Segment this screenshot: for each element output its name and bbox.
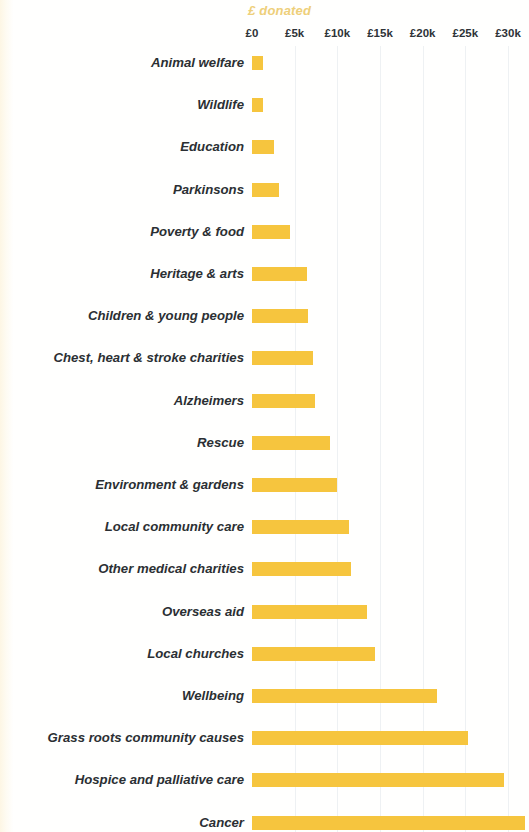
category-label: Local community care	[0, 520, 244, 534]
bar-row: Overseas aid	[0, 605, 529, 647]
bar	[252, 773, 504, 787]
bar	[252, 394, 315, 408]
bar	[252, 267, 307, 281]
category-label: Wellbeing	[0, 689, 244, 703]
category-label: Other medical charities	[0, 562, 244, 576]
category-label: Poverty & food	[0, 225, 244, 239]
bar	[252, 225, 290, 239]
bar	[252, 56, 263, 70]
bar-row: Wildlife	[0, 98, 529, 140]
category-label: Rescue	[0, 436, 244, 450]
category-label: Overseas aid	[0, 605, 244, 619]
category-label: Alzheimers	[0, 394, 244, 408]
category-label: Heritage & arts	[0, 267, 244, 281]
category-label: Wildlife	[0, 98, 244, 112]
bar	[252, 478, 337, 492]
bar-row: Wellbeing	[0, 689, 529, 731]
bar	[252, 605, 367, 619]
bar	[252, 816, 525, 830]
bar	[252, 647, 375, 661]
bar	[252, 731, 468, 745]
x-tick-label: £5k	[285, 27, 304, 39]
bar-row: Cancer	[0, 816, 529, 832]
x-tick-label: £0	[246, 27, 259, 39]
category-label: Cancer	[0, 816, 244, 830]
bar	[252, 562, 351, 576]
category-label: Children & young people	[0, 309, 244, 323]
category-label: Parkinsons	[0, 183, 244, 197]
bar-row: Grass roots community causes	[0, 731, 529, 773]
x-tick-label: £30k	[495, 27, 521, 39]
x-tick-label: £20k	[410, 27, 436, 39]
bar-row: Alzheimers	[0, 394, 529, 436]
category-label: Grass roots community causes	[0, 731, 244, 745]
category-label: Animal welfare	[0, 56, 244, 70]
bar-row: Heritage & arts	[0, 267, 529, 309]
bar	[252, 689, 437, 703]
category-label: Environment & gardens	[0, 478, 244, 492]
bar	[252, 98, 263, 112]
category-label: Chest, heart & stroke charities	[0, 351, 244, 365]
bar	[252, 183, 279, 197]
bar-row: Hospice and palliative care	[0, 773, 529, 815]
bar	[252, 309, 308, 323]
bar-row: Other medical charities	[0, 562, 529, 604]
x-tick-label: £25k	[453, 27, 479, 39]
bar-row: Education	[0, 140, 529, 182]
bar-row: Environment & gardens	[0, 478, 529, 520]
bar	[252, 520, 349, 534]
category-label: Hospice and palliative care	[0, 773, 244, 787]
bar	[252, 351, 313, 365]
bar-row: Poverty & food	[0, 225, 529, 267]
chart-axis-title: £ donated	[248, 3, 311, 18]
x-tick-label: £15k	[367, 27, 393, 39]
category-label: Education	[0, 140, 244, 154]
bar-row: Rescue	[0, 436, 529, 478]
bar-row: Animal welfare	[0, 56, 529, 98]
bar	[252, 436, 330, 450]
bar-row: Chest, heart & stroke charities	[0, 351, 529, 393]
bar-row: Children & young people	[0, 309, 529, 351]
bar-row: Parkinsons	[0, 183, 529, 225]
bar-row: Local community care	[0, 520, 529, 562]
bar-row: Local churches	[0, 647, 529, 689]
bar	[252, 140, 274, 154]
donations-bar-chart: £ donated £0£5k£10k£15k£20k£25k£30k Anim…	[0, 0, 529, 832]
x-tick-label: £10k	[325, 27, 351, 39]
category-label: Local churches	[0, 647, 244, 661]
